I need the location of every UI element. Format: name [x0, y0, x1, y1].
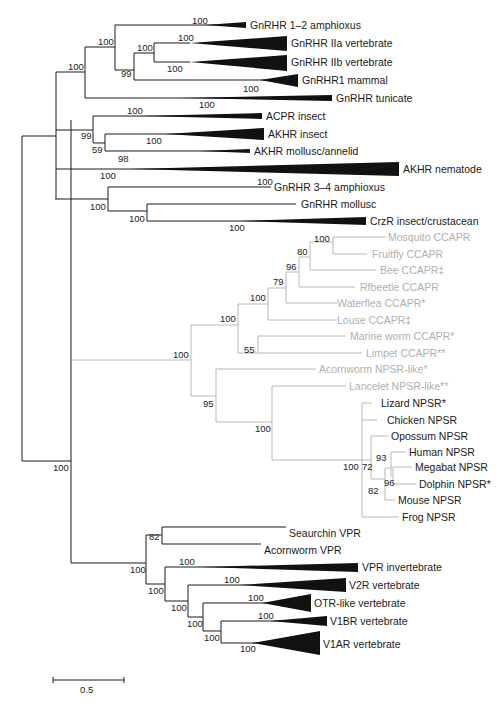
bootstrap-value: 100	[146, 135, 162, 146]
bootstrap-value: 99	[81, 130, 92, 141]
bootstrap-value: 100	[250, 292, 266, 303]
taxon-label: Chicken NPSR	[387, 414, 457, 426]
taxon-label: Limpet CCAPR**	[366, 347, 445, 359]
taxon-label: Lancelet NPSR-like**	[349, 380, 448, 392]
bootstrap-value: 100	[173, 349, 189, 360]
akhr-insect-clade	[165, 128, 264, 140]
taxon-label: Opossum NPSR	[391, 430, 468, 442]
taxon-label: GnRHR 3–4 amphioxus	[274, 181, 385, 193]
taxon-label: Frog NPSR	[402, 511, 456, 523]
taxon-label: GnRHR IIb vertebrate	[291, 56, 393, 68]
gnrhr1-mammal-clade	[260, 74, 298, 87]
bootstrap-value: 100	[199, 99, 215, 110]
taxon-label: GnRHR mollusc	[301, 198, 376, 210]
taxon-label: Rfbeetle CCAPR	[360, 281, 439, 293]
taxon-label: Waterflea CCAPR*	[337, 297, 425, 309]
taxon-label: Dolphin NPSR*	[419, 478, 491, 490]
bootstrap-value: 99	[121, 68, 132, 79]
v2r-vertebrate-clade	[240, 578, 346, 592]
gnrhr-iib-vertebrate-clade	[190, 55, 287, 71]
taxon-labels: GnRHR 1–2 amphioxus GnRHR IIa vertebrate…	[250, 19, 491, 650]
bootstrap-value: 100	[204, 632, 220, 643]
bootstrap-value: 96	[384, 477, 395, 488]
crzr-insect-crustacean-clade	[240, 217, 366, 225]
bootstrap-value: 100	[343, 461, 359, 472]
bootstrap-value: 96	[286, 261, 297, 272]
scale-bar-label: 0.5	[80, 684, 93, 695]
v1ar-vertebrate-clade	[252, 631, 320, 655]
bootstrap-value: 100	[179, 556, 195, 567]
scale-bar	[53, 677, 124, 683]
bootstrap-value: 100	[167, 63, 183, 74]
bootstrap-value: 100	[248, 592, 264, 603]
bootstrap-value: 95	[203, 398, 214, 409]
taxon-label: AKHR mollusc/annelid	[254, 145, 359, 157]
akhr-mollusc-annelid-clade	[200, 149, 250, 153]
bootstrap-value: 82	[149, 531, 160, 542]
bootstrap-values: 100 100 100 100 100 100 99 100 100 100 9…	[53, 15, 395, 654]
phylogenetic-tree: GnRHR 1–2 amphioxus GnRHR IIa vertebrate…	[0, 0, 504, 707]
taxon-label: GnRHR1 mammal	[302, 74, 388, 86]
bootstrap-value: 100	[220, 313, 236, 324]
bootstrap-value: 100	[224, 574, 240, 585]
bootstrap-value: 100	[258, 610, 274, 621]
taxon-label: CrzR insect/crustacean	[370, 215, 479, 227]
taxon-label: Bee CCAPR‡	[380, 264, 444, 276]
bootstrap-value: 100	[240, 643, 256, 654]
taxon-label: Marine worm CCAPR*	[350, 330, 454, 342]
taxon-label: Mosquito CCAPR	[388, 231, 471, 243]
taxon-label: Seaurchin VPR	[289, 527, 361, 539]
v1br-vertebrate-clade	[270, 616, 327, 626]
taxon-label: V1AR vertebrate	[323, 638, 401, 650]
bootstrap-value: 100	[148, 585, 164, 596]
taxon-label: Acornworm VPR	[264, 544, 342, 556]
taxon-label: AKHR insect	[268, 128, 328, 140]
bootstrap-value: 79	[273, 276, 284, 287]
taxon-label: Acornworm NPSR-like*	[319, 363, 428, 375]
bootstrap-value: 100	[68, 61, 84, 72]
taxon-label: V1BR vertebrate	[330, 615, 408, 627]
bootstrap-value: 100	[171, 602, 187, 613]
bootstrap-value: 100	[98, 36, 114, 47]
taxon-label: GnRHR 1–2 amphioxus	[250, 19, 361, 31]
vpr-invertebrate-clade	[200, 563, 358, 572]
taxon-label: Megabat NPSR	[415, 461, 488, 473]
taxon-label: AKHR nematode	[403, 163, 482, 175]
bootstrap-value: 100	[129, 213, 145, 224]
bootstrap-value: 100	[130, 564, 146, 575]
bootstrap-value: 100	[137, 42, 153, 53]
bootstrap-value: 100	[100, 170, 116, 181]
taxon-label: GnRHR IIa vertebrate	[291, 37, 393, 49]
bootstrap-value: 55	[244, 344, 255, 355]
bootstrap-value: 93	[376, 452, 387, 463]
bootstrap-value: 82	[368, 485, 379, 496]
gnrhr-akhr-clade	[55, 22, 399, 225]
bootstrap-value: 100	[90, 201, 106, 212]
bootstrap-value: 100	[314, 233, 330, 244]
bootstrap-value: 59	[92, 144, 103, 155]
bootstrap-value: 100	[255, 423, 271, 434]
bootstrap-value: 80	[297, 246, 308, 257]
bootstrap-value: 100	[257, 176, 273, 187]
akhr-nematode-clade	[130, 162, 399, 176]
taxon-label: GnRHR tunicate	[336, 92, 413, 104]
taxon-label: VPR invertebrate	[362, 561, 442, 573]
bootstrap-value: 100	[192, 15, 208, 26]
bootstrap-value: 98	[118, 153, 129, 164]
bootstrap-value: 72	[362, 461, 373, 472]
bootstrap-value: 100	[187, 618, 203, 629]
acpr-insect-clade	[140, 113, 262, 119]
bootstrap-value: 100	[229, 222, 245, 233]
gnrhr-iia-vertebrate-clade	[190, 36, 287, 51]
bootstrap-value: 100	[243, 83, 259, 94]
gnrhr-12-amphioxus-clade	[205, 22, 246, 28]
bootstrap-value: 100	[178, 32, 194, 43]
taxon-label: Mouse NPSR	[398, 494, 462, 506]
taxon-label: Lizard NPSR*	[381, 397, 446, 409]
taxon-label: OTR-like vertebrate	[314, 597, 406, 609]
taxon-label: ACPR insect	[266, 110, 326, 122]
taxon-label: V2R vertebrate	[349, 579, 420, 591]
taxon-label: Human NPSR	[409, 446, 475, 458]
taxon-label: Fruitfly CCAPR	[372, 248, 444, 260]
taxon-label: Louse CCAPR‡	[337, 314, 411, 326]
